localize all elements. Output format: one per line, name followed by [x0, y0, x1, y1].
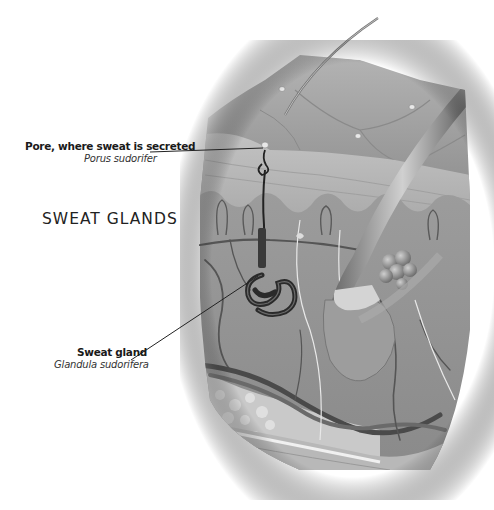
skin-cross-section-illustration	[0, 0, 494, 510]
diagram-title: SWEAT GLANDS	[42, 210, 178, 228]
diagram-canvas: Pore, where sweat is secreted Porus sudo…	[0, 0, 494, 510]
pore-label: Pore, where sweat is secreted	[25, 140, 195, 152]
sweat-gland-latin-label: Glandula sudorifera	[54, 359, 149, 370]
sweat-gland-label: Sweat gland	[77, 346, 147, 358]
pore-latin-label: Porus sudorifer	[84, 153, 157, 164]
